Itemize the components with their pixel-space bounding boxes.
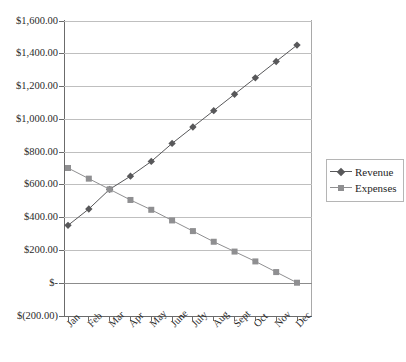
y-axis-tick-label: $1,600.00: [0, 16, 58, 27]
diamond-marker-icon: [330, 166, 352, 178]
chart-figure: $1,600.00$1,400.00$1,200.00$1,000.00$800…: [0, 0, 406, 362]
y-axis-tick-label: $-: [0, 278, 58, 289]
y-axis-tick-label: $1,400.00: [0, 48, 58, 59]
y-axis-tick-label: $200.00: [0, 245, 58, 256]
y-axis-tick-label: $600.00: [0, 179, 58, 190]
chart-legend: RevenueExpenses: [326, 159, 404, 202]
legend-item-revenue[interactable]: Revenue: [330, 164, 400, 180]
legend-item-expenses[interactable]: Expenses: [330, 180, 400, 196]
square-marker-icon: [330, 182, 352, 194]
y-axis-tick-label: $400.00: [0, 212, 58, 223]
legend-label: Expenses: [355, 183, 397, 194]
legend-label: Revenue: [355, 167, 393, 178]
y-axis-tick-label: $1,200.00: [0, 81, 58, 92]
y-axis-tick-label: $800.00: [0, 147, 58, 158]
y-axis-tick-label: $(200.00): [0, 311, 58, 322]
y-axis-tick-label: $1,000.00: [0, 114, 58, 125]
